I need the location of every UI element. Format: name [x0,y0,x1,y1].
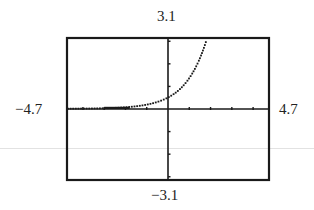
function-curve [67,41,207,109]
xmin-label: −4.7 [15,102,42,117]
xmax-label: 4.7 [279,102,298,117]
graph-window [0,0,314,210]
ymax-label: 3.1 [157,9,176,24]
ymin-label: −3.1 [151,188,178,203]
